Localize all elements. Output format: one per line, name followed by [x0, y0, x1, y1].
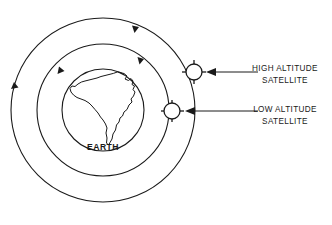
high-altitude-callout: HIGH ALTITUDE SATELLITE	[206, 64, 318, 85]
earth-label: EARTH	[87, 142, 119, 152]
high-altitude-orbit-arrow-left	[11, 82, 19, 89]
high-altitude-label-line2: SATELLITE	[262, 76, 308, 85]
low-altitude-satellite-body[interactable]	[164, 103, 180, 119]
earth: EARTH	[62, 69, 144, 152]
satellite-orbit-diagram: EARTH HIGH ALTITUDE SATELLITE	[0, 0, 332, 225]
low-altitude-satellite[interactable]	[161, 100, 184, 122]
high-altitude-orbit-arrow-top	[132, 26, 139, 34]
diagram-canvas: EARTH HIGH ALTITUDE SATELLITE	[0, 0, 332, 225]
low-altitude-callout: LOW ALTITUDE SATELLITE	[185, 105, 317, 126]
high-altitude-satellite-body[interactable]	[186, 64, 202, 80]
low-altitude-label-line1: LOW ALTITUDE	[253, 105, 317, 114]
earth-circle	[62, 69, 144, 151]
high-altitude-satellite[interactable]	[182, 60, 206, 84]
high-altitude-leader-arrowhead	[206, 68, 216, 76]
low-altitude-orbit-arrow-left	[58, 67, 65, 75]
low-altitude-label-line2: SATELLITE	[262, 117, 308, 126]
high-altitude-label-line1: HIGH ALTITUDE	[252, 64, 318, 73]
low-altitude-leader-arrowhead	[185, 107, 195, 115]
